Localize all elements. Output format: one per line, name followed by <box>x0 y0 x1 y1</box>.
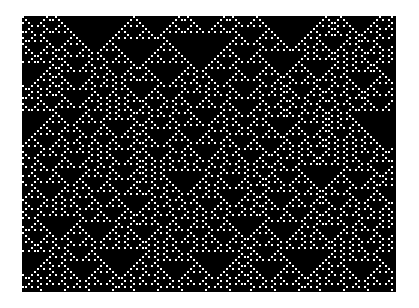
cellular-automaton-figure <box>22 16 396 292</box>
automaton-canvas <box>22 16 396 292</box>
